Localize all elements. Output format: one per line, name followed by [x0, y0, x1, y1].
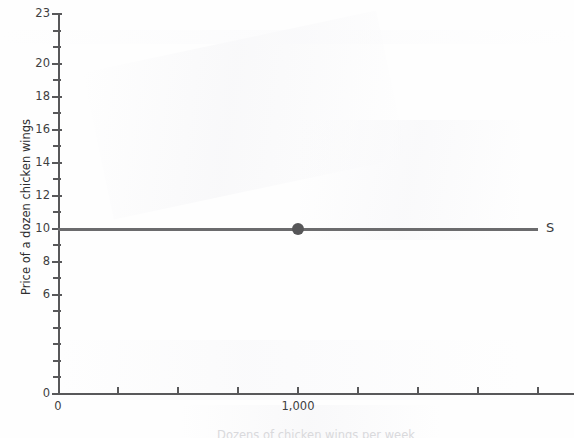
chart-canvas: 06810121416182023 01,000 Price of a doze… [0, 0, 574, 438]
y-tick-label: 0 [4, 388, 50, 400]
scan-artifact [83, 10, 408, 219]
y-tick-major [52, 162, 62, 164]
y-tick-minor [53, 112, 61, 114]
y-tick-major [52, 96, 62, 98]
x-tick [117, 387, 119, 395]
x-tick [357, 387, 359, 395]
y-tick-major [52, 393, 62, 395]
x-axis-title: Dozens of chicken wings per week [58, 428, 574, 438]
y-tick-minor [53, 376, 61, 378]
x-tick [477, 387, 479, 395]
x-tick [237, 387, 239, 395]
y-tick-label: 23 [4, 8, 50, 20]
equilibrium-point-marker [292, 223, 304, 235]
y-tick-minor [53, 277, 61, 279]
y-tick-minor [53, 46, 61, 48]
scan-artifact [0, 30, 574, 44]
x-tick-label: 1,000 [282, 399, 315, 413]
y-tick-minor [53, 327, 61, 329]
y-tick-major [52, 63, 62, 65]
y-axis-title: Price of a dozen chicken wings [19, 92, 33, 322]
x-tick [177, 387, 179, 395]
y-tick-label: 20 [4, 58, 50, 70]
y-tick-major [52, 195, 62, 197]
y-tick-minor [53, 360, 61, 362]
y-tick-major [52, 13, 62, 15]
y-tick-major [52, 294, 62, 296]
x-tick [537, 387, 539, 395]
scan-artifact [60, 340, 520, 400]
y-tick-minor [53, 211, 61, 213]
scan-artifact [300, 120, 520, 240]
y-tick-minor [53, 244, 61, 246]
y-tick-minor [53, 343, 61, 345]
y-tick-minor [53, 145, 61, 147]
supply-curve-label: S [546, 220, 554, 235]
y-tick-minor [53, 79, 61, 81]
y-tick-minor [53, 178, 61, 180]
x-axis-line [58, 393, 574, 395]
y-tick-major [52, 129, 62, 131]
y-axis-line [58, 13, 60, 395]
y-tick-minor [53, 310, 61, 312]
x-tick [297, 387, 299, 395]
x-tick [417, 387, 419, 395]
x-tick-label: 0 [54, 399, 61, 413]
y-tick-major [52, 261, 62, 263]
y-tick-minor [53, 30, 61, 32]
